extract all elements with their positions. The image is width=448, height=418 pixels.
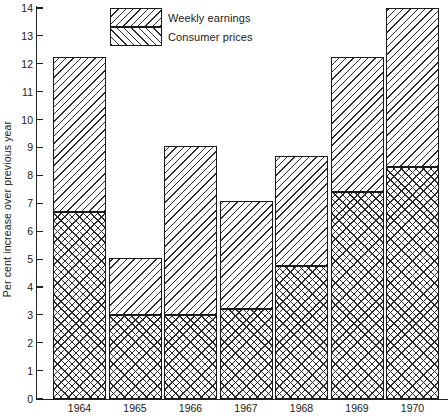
x-tick-label-1969: 1969 (331, 402, 384, 414)
y-tick-label-11: 11 (22, 86, 33, 97)
bar-segment-consumer-prices-1968 (275, 266, 328, 399)
bar-1966 (164, 146, 217, 398)
y-tick-13: 13 (36, 35, 43, 36)
bar-segment-consumer-prices-1969 (331, 192, 384, 398)
bar-segment-consumer-prices-1967 (220, 309, 273, 398)
y-tick-0: 0 (36, 398, 43, 399)
bar-1964 (53, 57, 106, 399)
y-tick-10: 10 (36, 119, 43, 120)
legend: Weekly earnings Consumer prices (110, 8, 253, 46)
y-tick-8: 8 (36, 175, 43, 176)
bar-1969 (331, 57, 384, 399)
x-tick-label-1966: 1966 (164, 402, 217, 414)
y-tick-label-13: 13 (21, 31, 33, 42)
legend-swatch-consumer-prices (110, 27, 162, 46)
bar-1967 (220, 201, 273, 399)
y-tick-label-6: 6 (27, 226, 33, 237)
bar-segment-weekly-earnings-1970 (386, 8, 439, 167)
bar-segment-weekly-earnings-1966 (164, 146, 217, 315)
x-tick-label-1967: 1967 (220, 402, 273, 414)
y-tick-4: 4 (36, 286, 43, 287)
legend-label-weekly-earnings: Weekly earnings (168, 12, 251, 24)
y-tick-label-12: 12 (21, 59, 33, 70)
y-tick-label-1: 1 (27, 365, 33, 376)
x-tick-label-1965: 1965 (109, 402, 162, 414)
legend-item-consumer-prices: Consumer prices (110, 27, 253, 46)
y-tick-11: 11 (36, 91, 43, 92)
bar-segment-consumer-prices-1964 (53, 212, 106, 399)
x-tick-label-1964: 1964 (53, 402, 106, 414)
legend-label-consumer-prices: Consumer prices (168, 31, 253, 43)
bar-segment-weekly-earnings-1965 (109, 258, 162, 315)
bar-1968 (275, 156, 328, 399)
y-tick-1: 1 (36, 370, 43, 371)
x-tick-label-1968: 1968 (275, 402, 328, 414)
y-tick-2: 2 (36, 342, 43, 343)
y-tick-label-7: 7 (27, 198, 33, 209)
y-tick-label-5: 5 (27, 254, 33, 265)
y-tick-3: 3 (36, 314, 43, 315)
x-tick-label-1970: 1970 (386, 402, 439, 414)
y-tick-12: 12 (36, 63, 43, 64)
y-tick-label-8: 8 (27, 170, 33, 181)
bar-segment-weekly-earnings-1967 (220, 201, 273, 310)
y-tick-label-0: 0 (27, 393, 33, 404)
legend-swatch-weekly-earnings (110, 8, 162, 27)
x-axis-line (36, 399, 448, 400)
y-axis-title: Per cent increase over previous year (0, 0, 14, 418)
y-tick-label-3: 3 (27, 310, 33, 321)
bar-segment-weekly-earnings-1968 (275, 156, 328, 266)
bar-segment-weekly-earnings-1964 (53, 57, 106, 212)
y-tick-label-4: 4 (27, 282, 33, 293)
plot-area: 01234567891011121314 1964196519661967196… (36, 0, 448, 400)
bar-segment-consumer-prices-1965 (109, 315, 162, 399)
bar-1965 (109, 258, 162, 399)
y-tick-6: 6 (36, 231, 43, 232)
bar-segment-consumer-prices-1970 (386, 167, 439, 399)
y-tick-label-10: 10 (21, 114, 33, 125)
bar-segment-consumer-prices-1966 (164, 315, 217, 399)
y-tick-5: 5 (36, 259, 43, 260)
y-tick-14: 14 (36, 7, 43, 8)
bar-segment-weekly-earnings-1969 (331, 57, 384, 192)
y-tick-label-9: 9 (27, 142, 33, 153)
legend-item-weekly-earnings: Weekly earnings (110, 8, 253, 27)
bar-chart: Per cent increase over previous year 012… (0, 0, 448, 418)
y-tick-label-2: 2 (27, 338, 33, 349)
bar-1970 (386, 8, 439, 399)
y-tick-label-14: 14 (21, 3, 33, 14)
y-tick-9: 9 (36, 147, 43, 148)
y-tick-7: 7 (36, 203, 43, 204)
